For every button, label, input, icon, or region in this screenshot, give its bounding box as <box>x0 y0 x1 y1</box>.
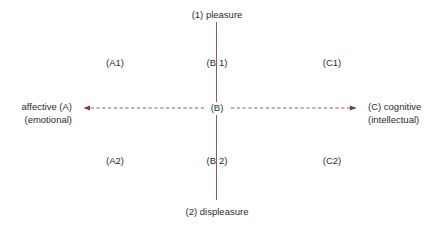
quadrant-label-b1: (B1) <box>207 57 228 70</box>
axis-label-displeasure: (2) displeasure <box>186 206 249 219</box>
origin-label-b: (B) <box>208 102 227 115</box>
axis-label-cognitive-line2: (intellectual) <box>368 114 421 127</box>
axis-label-pleasure: (1) pleasure <box>192 9 243 22</box>
quadrant-label-b1-left: (B <box>207 57 217 68</box>
axis-label-affective-line1: affective (A) <box>21 101 72 114</box>
axis-label-cognitive: (C) cognitive (intellectual) <box>368 101 421 126</box>
quadrant-label-b2: (B2) <box>207 155 228 168</box>
quadrant-label-b1-right: 1) <box>219 57 227 68</box>
quadrant-label-c1: (C1) <box>323 57 341 70</box>
quadrant-label-a1: (A1) <box>106 57 124 70</box>
quadrant-label-b2-left: (B <box>207 155 217 166</box>
axis-label-affective-line2: (emotional) <box>21 114 72 127</box>
quadrant-label-a2: (A2) <box>106 155 124 168</box>
quadrant-label-c2: (C2) <box>323 155 341 168</box>
axis-label-cognitive-line1: (C) cognitive <box>368 101 421 114</box>
axis-label-affective: affective (A) (emotional) <box>21 101 72 126</box>
quadrant-label-b2-right: 2) <box>219 155 227 166</box>
diagram-canvas: (1) pleasure (2) displeasure affective (… <box>0 0 444 228</box>
